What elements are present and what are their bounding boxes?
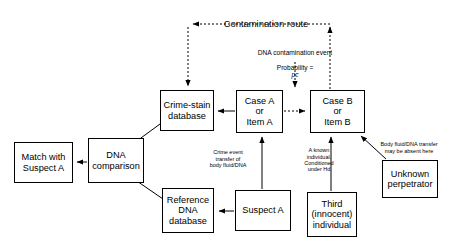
- node-dna-comparison[interactable]: DNA comparison: [88, 138, 144, 183]
- body-fluid-absent-text: Body fluid/DNA transfer may be absent he…: [368, 141, 450, 154]
- node-label: Case A or Item A: [245, 96, 275, 127]
- dna-contamination-event-line1: DNA contamination event: [233, 49, 357, 57]
- crime-event-transfer-text: Crime event transfer of body fluid/DNA: [197, 149, 259, 168]
- contamination-route-title: Contamination route: [211, 8, 321, 40]
- probability-prefix: Probability =: [233, 64, 357, 72]
- probability-symbol: pc: [233, 71, 357, 79]
- node-match-with-suspect-a[interactable]: Match with Suspect A: [14, 142, 73, 183]
- node-label: Crime-stain database: [164, 100, 211, 121]
- node-label: Third (innocent) individual: [312, 199, 353, 230]
- node-label: Reference DNA database: [167, 195, 209, 226]
- dna-contamination-event-line2: Probability = pc: [233, 64, 357, 79]
- node-case-a-or-item-a[interactable]: Case A or Item A: [236, 90, 283, 133]
- node-unknown-perpetrator[interactable]: Unknown perpetrator: [382, 160, 438, 198]
- node-label: Suspect A: [242, 205, 283, 215]
- known-individual-note: A known individual. Conditioned under Hd: [294, 141, 344, 179]
- node-case-b-or-item-b[interactable]: Case B or Item B: [310, 90, 365, 133]
- node-reference-dna-database[interactable]: Reference DNA database: [162, 188, 214, 233]
- node-label: DNA comparison: [92, 150, 140, 171]
- node-label: Unknown perpetrator: [388, 169, 433, 190]
- dna-contamination-event-note: DNA contamination event Probability = pc: [233, 41, 357, 86]
- crime-event-transfer-note: Crime event transfer of body fluid/DNA: [197, 143, 259, 175]
- node-label: Case B or Item B: [322, 96, 352, 127]
- body-fluid-absent-note: Body fluid/DNA transfer may be absent he…: [368, 135, 450, 160]
- contamination-route-title-text: Contamination route: [211, 19, 321, 30]
- node-crime-stain-database[interactable]: Crime-stain database: [160, 90, 214, 131]
- known-individual-text: A known individual. Conditioned under Hd: [294, 147, 344, 172]
- contamination-route-diagram: Match with Suspect A DNA comparison Crim…: [0, 0, 452, 243]
- node-third-innocent-individual[interactable]: Third (innocent) individual: [307, 192, 357, 237]
- node-label: Match with Suspect A: [22, 152, 66, 173]
- node-suspect-a[interactable]: Suspect A: [235, 190, 291, 231]
